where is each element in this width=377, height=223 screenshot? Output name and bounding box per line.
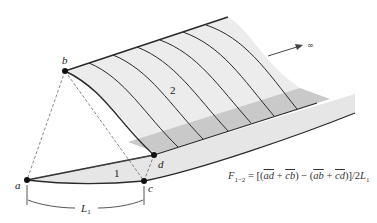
label-a: a xyxy=(15,179,21,191)
point-a xyxy=(24,177,30,183)
infinity-arrow-icon xyxy=(268,44,303,56)
label-d: d xyxy=(158,158,164,170)
surface-1-label: 1 xyxy=(114,167,120,179)
point-d xyxy=(151,152,157,158)
point-b xyxy=(62,68,68,74)
view-factor-formula: F1−2 = [(ad + cb) − (ab + cd)]/2L1 xyxy=(228,170,369,184)
point-c xyxy=(141,178,147,184)
dimension-label: L1 xyxy=(80,202,91,216)
infinity-label: ∞ xyxy=(307,41,314,50)
view-factor-diagram: b a c d 1 2 L1 ∞ xyxy=(0,0,377,223)
label-c: c xyxy=(148,182,153,194)
label-b: b xyxy=(62,54,68,66)
surface-2-label: 2 xyxy=(170,84,176,96)
